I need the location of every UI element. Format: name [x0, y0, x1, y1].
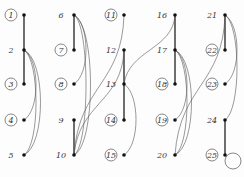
node-16: [173, 13, 177, 17]
curved-edge-16-13: [124, 15, 175, 84]
node-label-3: 3: [8, 80, 13, 89]
node-label-9: 9: [58, 116, 63, 125]
node-label-18: 18: [157, 80, 167, 89]
curved-edge-13-15: [124, 84, 136, 155]
node-label-10: 10: [56, 151, 66, 160]
node-label-5: 5: [8, 151, 13, 160]
node-24: [223, 118, 227, 122]
node-label-15: 15: [106, 151, 116, 160]
loop-25: [225, 153, 241, 169]
curved-edge-2-4: [24, 50, 36, 120]
node-25: [223, 153, 227, 157]
curved-edge-21-20: [175, 15, 225, 155]
curved-edge-11-10: [74, 15, 124, 155]
node-12: [122, 48, 126, 52]
node-9: [72, 118, 76, 122]
node-label-21: 21: [206, 11, 217, 20]
curved-edge-21-23: [225, 15, 237, 84]
node-11: [122, 13, 126, 17]
node-17: [173, 48, 177, 52]
curved-edge-21-24: [225, 15, 237, 120]
node-label-17: 17: [157, 46, 168, 55]
node-label-20: 20: [156, 151, 167, 160]
graph-drawing: 1234567891011121314151617181920212223242…: [0, 0, 244, 177]
node-label-2: 2: [7, 46, 13, 55]
node-label-19: 19: [157, 116, 167, 125]
node-label-24: 24: [206, 116, 217, 125]
node-7: [72, 48, 76, 52]
node-label-23: 23: [206, 80, 217, 89]
curved-edge-6-10: [74, 15, 86, 155]
node-label-16: 16: [157, 11, 167, 20]
node-label-7: 7: [58, 46, 64, 55]
node-label-14: 14: [106, 116, 116, 125]
node-23: [223, 82, 227, 86]
node-3: [22, 82, 26, 86]
node-19: [173, 118, 177, 122]
node-21: [223, 13, 227, 17]
node-label-8: 8: [58, 80, 63, 89]
node-5: [22, 153, 26, 157]
node-22: [223, 48, 227, 52]
node-13: [122, 82, 126, 86]
node-label-6: 6: [58, 11, 63, 20]
node-15: [122, 153, 126, 157]
node-8: [72, 82, 76, 86]
node-4: [22, 118, 26, 122]
node-label-1: 1: [8, 11, 13, 20]
node-14: [122, 118, 126, 122]
node-label-12: 12: [106, 46, 116, 55]
node-6: [72, 13, 76, 17]
node-18: [173, 82, 177, 86]
node-20: [173, 153, 177, 157]
node-label-13: 13: [106, 80, 116, 89]
node-label-25: 25: [206, 151, 217, 160]
node-label-11: 11: [106, 11, 116, 20]
node-10: [72, 153, 76, 157]
node-2: [22, 48, 26, 52]
node-label-22: 22: [206, 46, 217, 55]
curved-edge-17-19: [175, 50, 187, 120]
graph-diagram: 1234567891011121314151617181920212223242…: [0, 0, 244, 177]
node-label-4: 4: [7, 116, 13, 125]
node-1: [22, 13, 26, 17]
